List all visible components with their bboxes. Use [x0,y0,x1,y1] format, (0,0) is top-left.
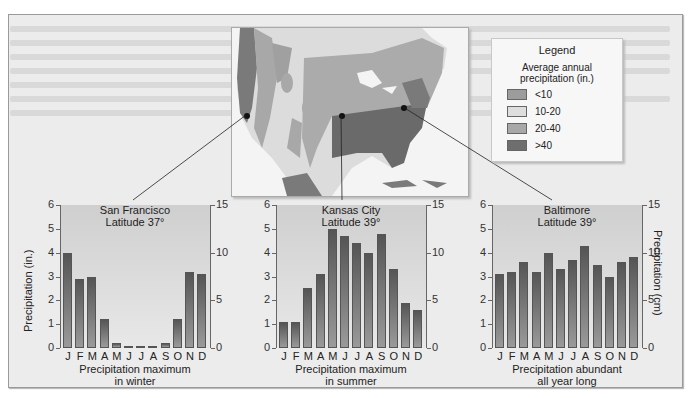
bar-4 [112,343,121,348]
month-label: M [327,350,339,362]
left-tick-mark [488,348,492,349]
left-tick-label: 2 [34,293,54,305]
left-tick-label: 3 [250,270,270,282]
bar-2 [303,288,312,348]
bar-0 [495,274,504,348]
bar-8 [377,234,386,348]
left-tick-label: 0 [250,341,270,353]
bar-5 [556,269,565,348]
caption-line2: in winter [40,375,230,387]
month-label: M [111,350,123,362]
bar-9 [173,319,182,348]
bar-1 [507,272,516,348]
right-tick-mark [211,348,215,349]
legend-subtitle: Average annual precipitation (in.) [492,62,622,84]
month-label: N [616,350,628,362]
month-label: M [543,350,555,362]
right-tick-label: 15 [648,198,660,210]
month-label: A [315,350,327,362]
chart-title: San FranciscoLatitude 37° [60,204,210,228]
legend-swatch [507,123,527,134]
left-tick-label: 5 [34,222,54,234]
legend-item: 10-20 [507,104,622,118]
chart-caption: Precipitation abundantall year long [472,363,662,387]
legend-item: <10 [507,87,622,101]
bar-9 [389,269,398,348]
right-tick-mark [427,348,431,349]
month-label: F [74,350,86,362]
city-name: Baltimore [492,204,642,216]
bar-0 [279,322,288,348]
chart-caption: Precipitation maximumin winter [40,363,230,387]
bar-3 [100,319,109,348]
month-label: D [196,350,208,362]
legend-subtitle-line1: Average annual [492,62,622,73]
right-tick-mark [643,348,647,349]
right-tick-mark [427,205,431,206]
right-axis [642,205,643,348]
right-tick-label: 5 [216,293,222,305]
right-tick-mark [643,253,647,254]
month-label: A [531,350,543,362]
month-label: M [518,350,530,362]
legend-label: 10-20 [535,106,561,117]
left-tick-label: 6 [250,198,270,210]
chart-san-francisco: 0123456051015JFMAMJJASONDSan FranciscoLa… [20,200,242,390]
bar-11 [197,274,206,348]
chart-title: BaltimoreLatitude 39° [492,204,642,228]
left-tick-label: 2 [250,293,270,305]
legend-label: >40 [535,140,552,151]
right-tick-label: 0 [216,341,222,353]
month-label: D [628,350,640,362]
right-tick-label: 0 [648,341,654,353]
left-tick-label: 0 [466,341,486,353]
right-tick-mark [427,253,431,254]
left-tick-label: 1 [466,317,486,329]
bar-4 [544,253,553,348]
right-tick-label: 0 [432,341,438,353]
month-label: J [278,350,290,362]
legend-swatch [507,140,527,151]
month-label: A [363,350,375,362]
month-label: J [555,350,567,362]
bar-6 [568,260,577,348]
chart-title: Kansas CityLatitude 39° [276,204,426,228]
month-label: O [172,350,184,362]
legend-swatch [507,89,527,100]
latitude-label: Latitude 39° [492,216,642,228]
month-label: O [604,350,616,362]
bar-6 [352,243,361,348]
right-axis [426,205,427,348]
right-tick-label: 5 [432,293,438,305]
north-america-precipitation-map [231,27,469,197]
caption-line1: Precipitation maximum [256,363,446,375]
bar-10 [617,262,626,348]
month-label: F [506,350,518,362]
bar-4 [328,229,337,348]
month-label: N [184,350,196,362]
bar-0 [63,253,72,348]
legend-subtitle-line2: precipitation (in.) [492,73,622,84]
left-tick-label: 0 [34,341,54,353]
bar-7 [364,253,373,348]
bar-11 [629,257,638,348]
left-tick-label: 5 [466,222,486,234]
month-label: J [123,350,135,362]
month-label: F [290,350,302,362]
right-tick-label: 10 [216,246,228,258]
bar-10 [185,272,194,348]
legend-label: <10 [535,89,552,100]
chart-caption: Precipitation maximumin summer [256,363,446,387]
month-label: J [339,350,351,362]
left-tick-label: 4 [250,246,270,258]
bar-10 [401,303,410,348]
month-label: J [62,350,74,362]
bar-5 [124,346,133,348]
bar-1 [291,322,300,348]
right-tick-label: 10 [432,246,444,258]
bar-3 [532,272,541,348]
month-label: N [400,350,412,362]
month-label: J [494,350,506,362]
month-label: A [147,350,159,362]
bar-8 [593,265,602,348]
